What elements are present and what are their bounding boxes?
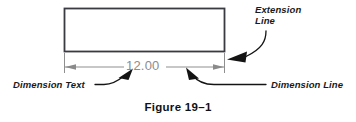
dimension-text-value: 12.00 — [126, 58, 160, 73]
dimension-arrowhead-left — [65, 64, 76, 69]
label-extension-line: Extension Line — [255, 4, 301, 26]
leader-dimension-line — [193, 75, 267, 85]
leader-extension-line — [246, 31, 266, 57]
dimension-arrowhead-right — [213, 64, 224, 69]
label-extension-line-row2: Line — [255, 15, 301, 26]
object-rectangle — [65, 9, 225, 52]
label-dimension-text: Dimension Text — [13, 79, 85, 90]
figure-caption: Figure 19–1 — [0, 100, 356, 114]
label-extension-line-row1: Extension — [255, 4, 301, 15]
figure-19-1: 12.00 Extension Line Dimension Text Dime… — [0, 0, 356, 122]
leader-arrowhead-dimension-line — [186, 68, 199, 81]
label-dimension-line: Dimension Line — [271, 79, 343, 90]
leader-dimension-text — [95, 76, 125, 85]
leader-arrowhead-extension-line — [227, 52, 247, 63]
